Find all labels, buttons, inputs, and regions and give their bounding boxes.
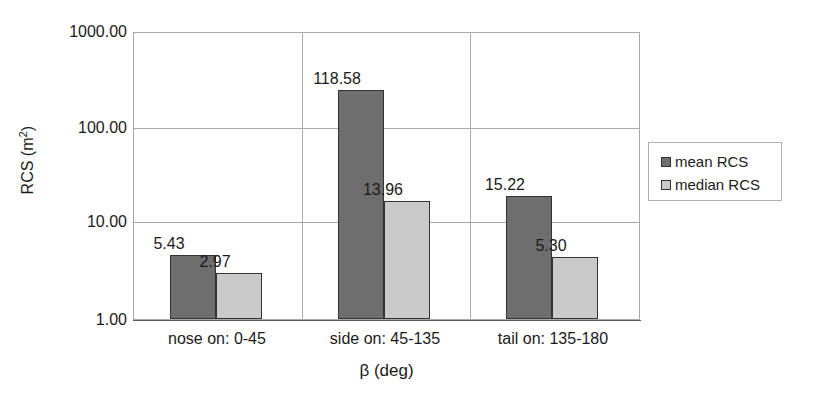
legend-label-mean: mean RCS: [675, 153, 748, 170]
bar-median-side-on: [384, 201, 430, 319]
bar-median-nose-on: [216, 273, 262, 319]
x-axis-category-label-nose-on: nose on: 0-45: [127, 330, 307, 348]
x-axis-category-label-side-on: side on: 45-135: [295, 330, 475, 348]
chart-figure: RCS (m2) 1000.00 100.00 10.00 1.00 5.43 …: [0, 0, 826, 405]
y-axis-tick-label: 1.00: [7, 311, 127, 329]
gridline-100: [134, 128, 639, 129]
y-axis-tick-label: 10.00: [7, 213, 127, 231]
x-axis-title: β (deg): [133, 361, 640, 381]
bar-value-label-median-side-on: 13.96: [348, 181, 418, 199]
bar-value-label-mean-nose-on: 5.43: [134, 235, 204, 253]
y-axis-tick-label: 1000.00: [7, 23, 127, 41]
legend-item-mean-rcs: mean RCS: [661, 150, 781, 173]
bar-mean-side-on: [338, 90, 384, 319]
x-axis-category-label-tail-on: tail on: 135-180: [463, 330, 643, 348]
legend: mean RCS median RCS: [648, 142, 782, 201]
bar-median-tail-on: [552, 257, 598, 319]
legend-swatch-icon-median: [661, 180, 671, 190]
y-axis-tick-labels: 1000.00 100.00 10.00 1.00: [0, 0, 127, 405]
x-axis-baseline: [133, 320, 641, 321]
plot-area: [133, 32, 640, 320]
legend-item-median-rcs: median RCS: [661, 173, 781, 196]
bar-value-label-mean-tail-on: 15.22: [470, 176, 540, 194]
y-axis-tick-label: 100.00: [7, 119, 127, 137]
bar-value-label-median-nose-on: 2.97: [180, 253, 250, 271]
bar-mean-tail-on: [506, 196, 552, 319]
bar-value-label-mean-side-on: 118.58: [302, 70, 372, 88]
legend-label-median: median RCS: [675, 176, 760, 193]
bar-value-label-median-tail-on: 5.30: [516, 237, 586, 255]
legend-swatch-icon-mean: [661, 157, 671, 167]
